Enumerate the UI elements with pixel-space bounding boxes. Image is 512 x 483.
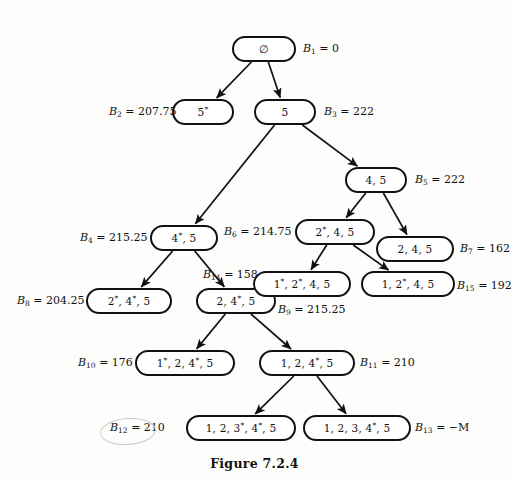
- figure-caption: Figure 7.2.4: [0, 456, 509, 471]
- tree-node-n2: 5*: [172, 99, 234, 125]
- tree-node-label: 2, 4, 5: [396, 244, 435, 255]
- tree-node-label: 1, 2, 3*, 4*, 5: [204, 423, 279, 434]
- bound-subscript: 7: [468, 247, 473, 256]
- bound-value: 0: [332, 42, 339, 55]
- bound-subscript: 3: [332, 110, 337, 119]
- bound-subscript: 6: [232, 230, 237, 239]
- bound-subscript: 14: [211, 273, 221, 282]
- tree-node-label: 4, 5: [364, 175, 389, 186]
- tree-node-n7: 2, 4, 5: [376, 236, 454, 262]
- bound-value: −M: [449, 421, 469, 434]
- bound-subscript: 4: [88, 236, 93, 245]
- bound-value: 215.25: [109, 231, 148, 244]
- bound-label-B8: B8 = 204.25: [17, 294, 85, 307]
- bound-label-B10: B10 = 176: [78, 356, 133, 369]
- tree-node-label: 2, 4*, 5: [215, 296, 258, 307]
- tree-edge-n11-to-n12: [255, 376, 294, 414]
- tree-node-n11: 1, 2, 4*, 5: [259, 350, 355, 376]
- bound-value: 204.25: [46, 294, 85, 307]
- bound-value: 215.25: [307, 303, 346, 316]
- tree-edge-n5-to-n7: [383, 193, 407, 235]
- tree-node-n3: 5: [254, 99, 316, 125]
- tree-edge-n1-to-n3: [268, 62, 280, 98]
- tree-edge-n5-to-n6: [346, 193, 366, 218]
- bound-label-B11: B11 = 210: [360, 356, 415, 369]
- bound-label-B5: B5 = 222: [415, 173, 465, 186]
- tree-node-label: 2*, 4*, 5: [106, 296, 153, 307]
- bound-value: 162: [489, 242, 510, 255]
- bound-label-B1: B1 = 0: [303, 42, 339, 55]
- bound-label-B13: B13 = −M: [415, 421, 469, 434]
- tree-edge-n6-to-n14: [311, 245, 327, 270]
- bound-value: 207.75: [138, 105, 177, 118]
- tree-node-n8: 2*, 4*, 5: [86, 288, 172, 314]
- tree-node-n10: 1*, 2, 4*, 5: [135, 350, 235, 376]
- bound-label-B15: B15 = 192: [457, 279, 512, 292]
- bound-label-B3: B3 = 222: [324, 105, 374, 118]
- bound-value: 192: [491, 279, 512, 292]
- handdrawn-ellipse-annotation: [99, 416, 157, 447]
- bound-subscript: 10: [86, 361, 96, 370]
- tree-node-label: ∅: [257, 44, 271, 55]
- bound-value: 222: [444, 173, 465, 186]
- tree-node-label: 1, 2, 3, 4*, 5: [322, 423, 393, 434]
- tree-edge-n4-to-n8: [141, 251, 172, 287]
- bound-subscript: 5: [423, 178, 428, 187]
- tree-node-label: 1, 2*, 4, 5: [380, 279, 437, 290]
- bound-subscript: 9: [286, 308, 291, 317]
- bound-subscript: 11: [368, 361, 378, 370]
- tree-edge-n3-to-n5: [302, 125, 357, 166]
- bound-label-B2: B2 = 207.75: [109, 105, 177, 118]
- bound-subscript: 1: [311, 47, 316, 56]
- bound-subscript: 13: [423, 426, 433, 435]
- tree-edge-n3-to-n4: [195, 125, 274, 224]
- tree-edge-n11-to-n13: [317, 376, 346, 414]
- bound-value: 214.75: [253, 225, 292, 238]
- tree-node-n5: 4, 5: [345, 167, 407, 193]
- tree-edge-n9-to-n10: [197, 314, 226, 349]
- tree-node-label: 1, 2, 4*, 5: [279, 358, 336, 369]
- bound-subscript: 2: [117, 110, 122, 119]
- bound-subscript: 15: [465, 284, 475, 293]
- tree-node-n15: 1, 2*, 4, 5: [361, 271, 455, 297]
- bound-subscript: 8: [25, 299, 30, 308]
- tree-node-label: 1*, 2, 4*, 5: [155, 358, 216, 369]
- bound-value: 176: [112, 356, 133, 369]
- tree-node-n12: 1, 2, 3*, 4*, 5: [186, 415, 296, 441]
- bound-label-B4: B4 = 215.25: [80, 231, 148, 244]
- tree-edge-n9-to-n11: [251, 314, 291, 349]
- tree-node-n4: 4*, 5: [150, 225, 218, 251]
- tree-node-label: 5: [280, 107, 291, 118]
- tree-node-n6: 2*, 4, 5: [295, 219, 375, 245]
- tree-node-label: 1*, 2*, 4, 5: [272, 279, 333, 290]
- tree-node-label: 4*, 5: [170, 233, 199, 244]
- tree-node-n14: 1*, 2*, 4, 5: [253, 271, 351, 297]
- bound-value: 222: [353, 105, 374, 118]
- tree-edge-n1-to-n2: [217, 62, 252, 98]
- tree-node-n1: ∅: [232, 36, 296, 62]
- tree-node-n13: 1, 2, 3, 4*, 5: [303, 415, 411, 441]
- bound-value: 210: [394, 356, 415, 369]
- bound-label-B14: B14 = 158: [203, 268, 258, 281]
- bound-label-B6: B6 = 214.75: [224, 225, 292, 238]
- bound-label-B7: B7 = 162: [460, 242, 510, 255]
- tree-node-label: 5*: [196, 107, 211, 118]
- tree-node-label: 2*, 4, 5: [314, 227, 357, 238]
- bound-value: 158: [237, 268, 258, 281]
- bound-label-B9: B9 = 215.25: [278, 303, 346, 316]
